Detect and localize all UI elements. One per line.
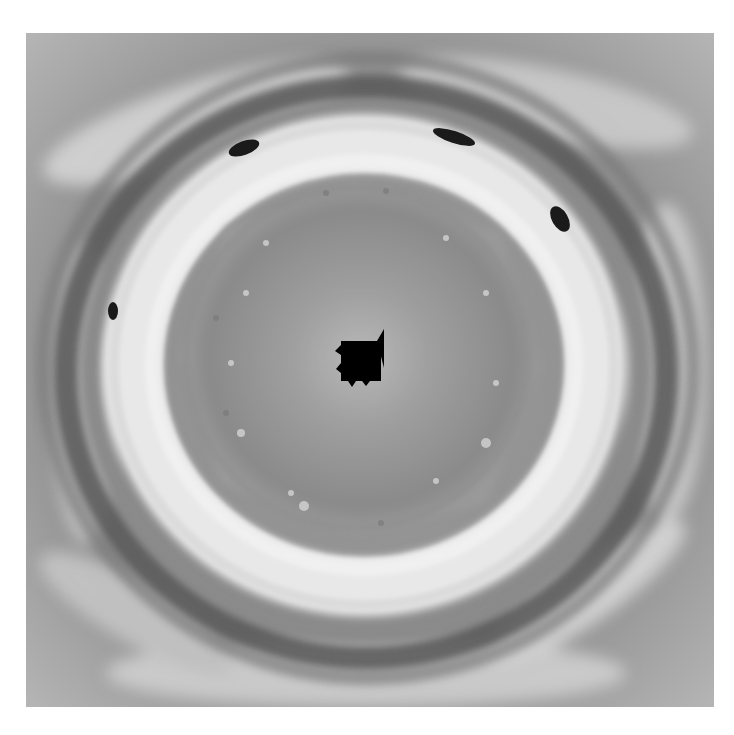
vortex-rendering (26, 33, 714, 707)
polar-vortex-photo (26, 33, 714, 707)
